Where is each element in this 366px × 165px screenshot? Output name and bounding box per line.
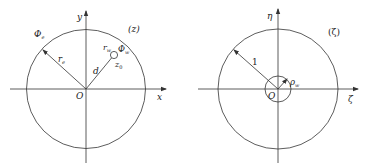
left-panel-z-plane: (z) y x O Φe re d rw Φw z0 bbox=[10, 11, 166, 163]
well-circle bbox=[110, 51, 117, 58]
inner-radius-label: ρw bbox=[289, 77, 300, 88]
origin-label: O bbox=[268, 91, 276, 101]
outer-radius-label: re bbox=[58, 54, 65, 65]
well-potential-label: Φw bbox=[118, 44, 130, 55]
well-radius-label: rw bbox=[103, 43, 112, 53]
y-axis-label: y bbox=[76, 12, 83, 22]
eta-axis-label: η bbox=[267, 11, 273, 21]
well-center-label: z0 bbox=[114, 60, 122, 70]
distance-label: d bbox=[93, 66, 99, 76]
inner-radius-line bbox=[278, 79, 287, 89]
x-axis-label: x bbox=[157, 92, 162, 102]
origin-label: O bbox=[76, 91, 84, 101]
plane-label-z: (z) bbox=[128, 24, 140, 34]
right-panel-zeta-plane: (ζ) η ζ O 1 ρw bbox=[198, 9, 358, 163]
unit-radius-line bbox=[234, 50, 278, 89]
outer-potential-label: Φe bbox=[34, 29, 44, 40]
plane-label-zeta: (ζ) bbox=[328, 27, 340, 37]
diagram-canvas: (z) y x O Φe re d rw Φw z0 (ζ) η ζ O 1 ρ… bbox=[0, 0, 366, 165]
zeta-axis-label: ζ bbox=[348, 94, 354, 104]
outer-radius-line bbox=[43, 50, 86, 89]
unit-radius-label: 1 bbox=[252, 57, 258, 67]
